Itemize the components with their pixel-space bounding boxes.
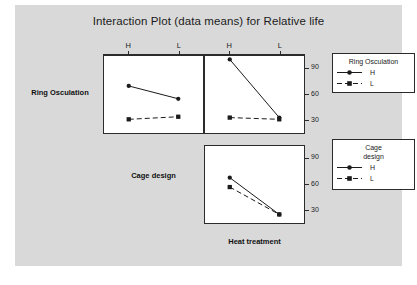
- plot-panel-ring-by-heat: [204, 55, 305, 134]
- legend-cage-design: Cage design H L: [332, 139, 415, 190]
- legend-label-cage-h: H: [370, 162, 375, 173]
- legend-title-cage-design-line1: Cage: [333, 143, 414, 152]
- legend-title-ring-osculation: Ring Osculation: [333, 57, 414, 66]
- y-axis-tick-mark: [305, 120, 309, 121]
- column-header-group-right: H L: [204, 41, 305, 55]
- chart-title: Interaction Plot (data means) for Relati…: [15, 15, 402, 27]
- plot-panel-cage-by-heat: [204, 145, 305, 224]
- plot-series-layer: [205, 56, 304, 133]
- y-axis-tick-label: 90: [311, 153, 319, 160]
- plot-series-layer: [104, 56, 203, 133]
- column-tick-label-l-left: L: [177, 41, 181, 50]
- legend-title-cage-design-line2: design: [333, 152, 414, 161]
- y-axis-tick-mark: [305, 158, 309, 159]
- y-axis-tick-mark: [305, 94, 309, 95]
- legend-key-dashed-square: [336, 78, 366, 89]
- y-axis-bottom-row: 306090: [305, 145, 331, 224]
- y-axis-tick-mark: [305, 184, 309, 185]
- plot-series-layer: [205, 146, 304, 223]
- row-label-ring-osculation: Ring Osculation: [17, 88, 103, 97]
- column-tick-label-h-right: H: [227, 41, 232, 50]
- legend-key-solid-circle: [336, 67, 366, 78]
- legend-key-dashed-square: [336, 173, 366, 184]
- legend-item-ring-h[interactable]: H: [333, 67, 414, 78]
- y-axis-tick-mark: [305, 210, 309, 211]
- y-axis-tick-label: 30: [311, 116, 319, 123]
- legend-label-ring-h: H: [370, 67, 375, 78]
- chart-surface: Interaction Plot (data means) for Relati…: [15, 5, 402, 266]
- legend-label-cage-l: L: [370, 173, 374, 184]
- y-axis-tick-label: 30: [311, 206, 319, 213]
- column-tick-label-h-left: H: [126, 41, 131, 50]
- legend-key-solid-circle: [336, 162, 366, 173]
- legend-item-cage-h[interactable]: H: [333, 162, 414, 173]
- legend-item-cage-l[interactable]: L: [333, 173, 414, 184]
- legend-ring-osculation: Ring Osculation H L: [332, 53, 415, 93]
- y-axis-tick-label: 60: [311, 90, 319, 97]
- y-axis-top-row: 306090: [305, 55, 331, 134]
- y-axis-tick-mark: [305, 68, 309, 69]
- legend-item-ring-l[interactable]: L: [333, 78, 414, 89]
- y-axis-tick-label: 90: [311, 63, 319, 70]
- legend-label-ring-l: L: [370, 78, 374, 89]
- column-label-heat-treatment: Heat treatment: [204, 237, 305, 246]
- row-label-cage-design: Cage design: [103, 171, 204, 180]
- plot-panel-ring-by-cage: [103, 55, 204, 134]
- column-tick-label-l-right: L: [278, 41, 282, 50]
- column-header-group-left: H L: [103, 41, 204, 55]
- y-axis-tick-label: 60: [311, 180, 319, 187]
